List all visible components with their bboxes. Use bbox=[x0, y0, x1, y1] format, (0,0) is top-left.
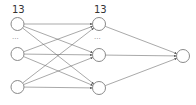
connection-arrow bbox=[24, 54, 93, 55]
connection-arrow bbox=[24, 57, 93, 84]
hidden-node bbox=[93, 18, 106, 31]
hidden-node bbox=[93, 82, 106, 95]
connection-arrow bbox=[106, 55, 177, 56]
hidden-layer-ellipsis: ... bbox=[94, 33, 101, 41]
input-layer-count-label: 13 bbox=[12, 4, 25, 15]
input-layer-ellipsis: ... bbox=[12, 33, 19, 41]
neural-network-diagram: 13 ... 13 ... bbox=[0, 0, 196, 105]
input-node bbox=[11, 81, 24, 94]
connection-arrow bbox=[24, 87, 93, 88]
hidden-layer-count-label: 13 bbox=[94, 4, 107, 15]
input-node bbox=[11, 48, 24, 61]
input-node bbox=[11, 18, 24, 31]
hidden-node bbox=[93, 49, 106, 62]
connection-arrow bbox=[105, 58, 177, 85]
connection-arrow bbox=[105, 26, 177, 53]
output-node bbox=[177, 50, 190, 63]
